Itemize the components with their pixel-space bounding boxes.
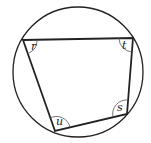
- angle-label-r: r: [31, 40, 37, 53]
- circumscribed-circle: [13, 7, 143, 137]
- angle-label-t: t: [122, 39, 127, 52]
- angle-label-s: s: [117, 101, 123, 114]
- quadrilateral: [23, 38, 133, 131]
- cyclic-quadrilateral-diagram: r t s u: [0, 0, 151, 143]
- angle-label-u: u: [56, 115, 63, 128]
